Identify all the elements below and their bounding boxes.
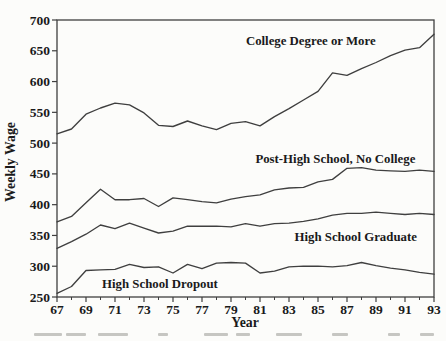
y-axis-tick-label: 700 bbox=[30, 13, 51, 28]
x-axis-tick-label: 87 bbox=[340, 302, 354, 317]
cropped-caption-fragment bbox=[34, 333, 440, 338]
series-line-college-degree-or-more bbox=[57, 34, 434, 134]
series-label-post-high-school-no-college: Post-High School, No College bbox=[255, 152, 415, 166]
x-axis-tick-label: 79 bbox=[224, 302, 238, 317]
x-axis-tick-label: 67 bbox=[50, 302, 64, 317]
x-axis-title: Year bbox=[231, 315, 259, 330]
figure-page: Weekly Wage Year 25030035040045050055060… bbox=[0, 0, 446, 341]
y-axis-tick-label: 400 bbox=[30, 197, 51, 212]
x-axis-tick-label: 75 bbox=[166, 302, 180, 317]
x-axis-tick-label: 81 bbox=[253, 302, 267, 317]
series-line-post-high-school-no-college bbox=[57, 168, 434, 222]
x-axis-tick-label: 77 bbox=[195, 302, 209, 317]
series-label-high-school-graduate: High School Graduate bbox=[295, 230, 418, 244]
x-axis-tick-label: 91 bbox=[398, 302, 412, 317]
y-axis-tick-label: 500 bbox=[30, 136, 51, 151]
series-label-high-school-dropout: High School Dropout bbox=[102, 277, 218, 291]
y-axis-tick-label: 550 bbox=[30, 105, 51, 120]
y-axis-tick-label: 250 bbox=[30, 290, 51, 305]
x-axis-tick-label: 89 bbox=[369, 302, 383, 317]
x-axis-tick-label: 93 bbox=[427, 302, 441, 317]
x-axis-tick-label: 83 bbox=[282, 302, 296, 317]
x-axis-tick-label: 85 bbox=[311, 302, 325, 317]
x-axis-tick-label: 73 bbox=[137, 302, 151, 317]
y-axis-tick-label: 350 bbox=[30, 228, 51, 243]
y-axis-tick-label: 300 bbox=[30, 259, 51, 274]
plot-area: 2503003504004505005506006507006769717375… bbox=[30, 13, 441, 318]
series-label-college-degree-or-more: College Degree or More bbox=[246, 34, 376, 48]
y-axis-title: Weekly Wage bbox=[3, 122, 18, 202]
y-axis-tick-label: 650 bbox=[30, 43, 51, 58]
x-axis-tick-label: 69 bbox=[79, 302, 93, 317]
y-axis-tick-label: 600 bbox=[30, 74, 51, 89]
x-axis-tick-label: 71 bbox=[108, 302, 122, 317]
weekly-wage-by-education-chart: Weekly Wage Year 25030035040045050055060… bbox=[0, 0, 446, 332]
y-axis-tick-label: 450 bbox=[30, 166, 51, 181]
